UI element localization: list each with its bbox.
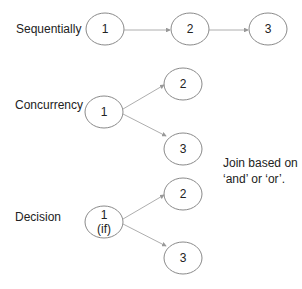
join-note: Join based on ‘and’ or ‘or’.: [223, 155, 298, 187]
seq-node-3-label: 3: [258, 22, 278, 36]
diagram-canvas: Sequentially Concurrency Decision 1 2 3 …: [0, 0, 302, 289]
dec-node-1-label: 1 (if): [89, 208, 119, 236]
section-label-decision: Decision: [15, 210, 61, 224]
dec-arrow-1-3: [123, 224, 166, 246]
dec-node-2-label: 2: [173, 187, 193, 201]
conc-arrow-1-3: [123, 114, 166, 136]
diagram-shapes: [0, 0, 302, 289]
join-note-line1: Join based on: [223, 155, 298, 171]
dec-node-3-label: 3: [173, 251, 193, 265]
conc-node-2-label: 2: [173, 77, 193, 91]
conc-node-3-label: 3: [173, 142, 193, 156]
seq-node-1-label: 1: [95, 22, 115, 36]
seq-node-2-label: 2: [180, 22, 200, 36]
dec-node-1-sub: (if): [89, 222, 119, 236]
join-note-line2: ‘and’ or ‘or’.: [223, 171, 298, 187]
conc-arrow-1-2: [123, 85, 164, 109]
section-label-concurrency: Concurrency: [15, 98, 83, 112]
dec-node-1-number: 1: [89, 208, 119, 222]
conc-node-1-label: 1: [94, 105, 114, 119]
section-label-sequentially: Sequentially: [16, 22, 81, 36]
dec-arrow-1-2: [123, 195, 164, 219]
